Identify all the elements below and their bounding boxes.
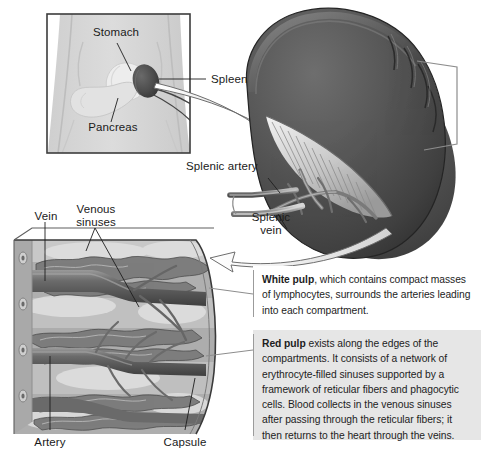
label-capsule: Capsule (159, 436, 211, 449)
red-pulp-rule (253, 334, 254, 436)
white-pulp-callout: White pulp, which contains compact masse… (253, 266, 481, 321)
label-pancreas: Pancreas (65, 121, 161, 134)
label-spleen: Spleen (211, 73, 247, 86)
label-stomach: Stomach (70, 26, 162, 39)
cross-section-graphic (11, 228, 224, 434)
spleen-anatomy-figure: Stomach Pancreas Spleen Splenic artery S… (0, 0, 483, 471)
white-pulp-term: White pulp (262, 274, 314, 285)
label-artery: Artery (27, 436, 73, 449)
white-pulp-rule (253, 270, 254, 317)
label-splenic-vein: Splenic vein (242, 211, 300, 237)
label-vein: Vein (26, 210, 66, 223)
red-pulp-callout: Red pulp exists along the edges of the c… (253, 330, 481, 440)
red-pulp-body: exists along the edges of the compartmen… (262, 338, 459, 441)
label-venous-sinuses: Venous sinuses (68, 203, 124, 229)
red-pulp-term: Red pulp (262, 338, 306, 349)
label-splenic-artery: Splenic artery (186, 160, 258, 173)
